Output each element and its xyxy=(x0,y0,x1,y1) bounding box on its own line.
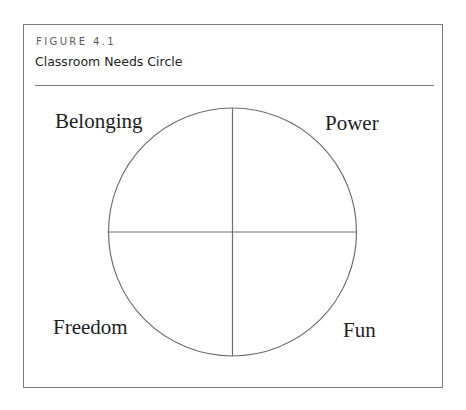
quadrant-label-belonging: Belonging xyxy=(55,109,143,133)
figure-frame: FIGURE 4.1 Classroom Needs Circle Belong… xyxy=(23,24,443,388)
quadrant-label-freedom: Freedom xyxy=(53,315,128,339)
quadrant-label-fun: Fun xyxy=(343,318,376,342)
quadrant-label-power: Power xyxy=(325,111,379,135)
